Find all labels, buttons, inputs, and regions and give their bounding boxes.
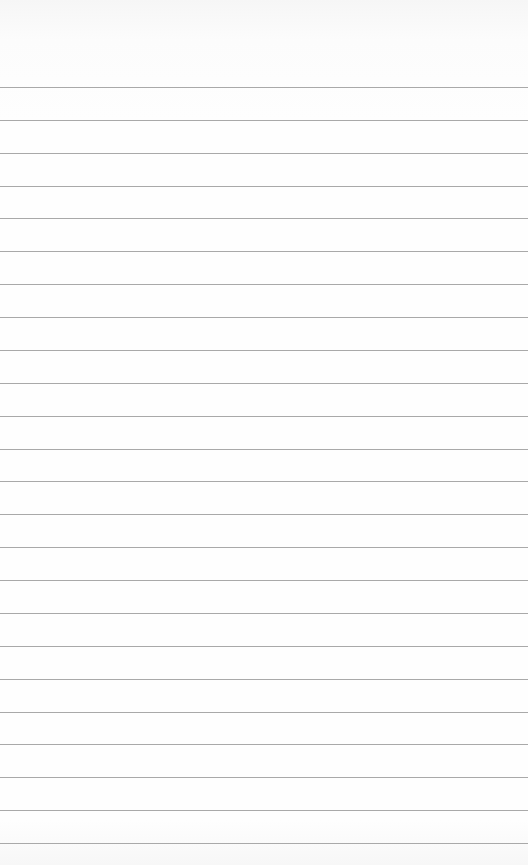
ruled-line: [0, 87, 528, 88]
ruled-line: [0, 317, 528, 318]
ruled-line: [0, 712, 528, 713]
ruled-line: [0, 646, 528, 647]
ruled-line: [0, 449, 528, 450]
ruled-line: [0, 547, 528, 548]
ruled-line: [0, 810, 528, 811]
ruled-line: [0, 383, 528, 384]
ruled-line: [0, 416, 528, 417]
ruled-line: [0, 284, 528, 285]
ruled-line: [0, 186, 528, 187]
ruled-line: [0, 744, 528, 745]
ruled-line: [0, 120, 528, 121]
ruled-line: [0, 514, 528, 515]
ruled-line: [0, 613, 528, 614]
ruled-line: [0, 481, 528, 482]
ruled-line: [0, 218, 528, 219]
ruled-line: [0, 777, 528, 778]
ruled-line: [0, 350, 528, 351]
ruled-line: [0, 153, 528, 154]
ruled-line: [0, 679, 528, 680]
ruled-line: [0, 251, 528, 252]
ruled-paper-sheet: [0, 0, 528, 865]
ruled-line: [0, 580, 528, 581]
ruled-line: [0, 843, 528, 844]
